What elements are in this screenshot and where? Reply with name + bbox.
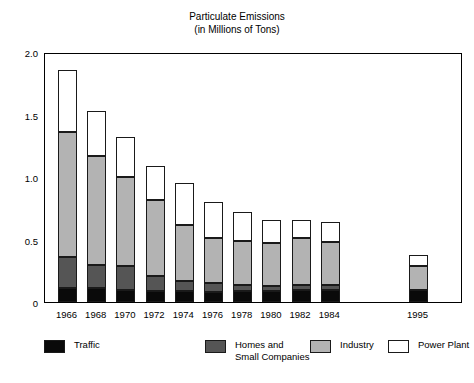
bar-segment-1984-homes-and — [321, 285, 340, 290]
bar-segment-1974-traffic — [175, 291, 194, 302]
x-tick-label: 1978 — [231, 309, 252, 320]
bar-segment-1974-power-plant — [175, 183, 194, 224]
bar-segment-1968-homes-and — [87, 265, 106, 289]
x-tick-label: 1974 — [173, 309, 194, 320]
bar-segment-1980-homes-and — [262, 286, 281, 291]
bar-segment-1970-traffic — [116, 290, 135, 303]
legend-item-power-plant[interactable]: Power Plant — [388, 339, 469, 353]
legend-label: Traffic — [74, 339, 100, 351]
bar-1978[interactable] — [233, 212, 252, 302]
bar-segment-1982-power-plant — [292, 220, 311, 239]
bar-segment-1976-traffic — [204, 292, 223, 302]
bar-segment-1984-power-plant — [321, 222, 340, 242]
y-tick-label: 1.0 — [6, 173, 38, 184]
y-tick-label: 0 — [6, 298, 38, 309]
x-tick-label: 1984 — [319, 309, 340, 320]
bar-segment-1968-traffic — [87, 288, 106, 302]
bar-segment-1984-traffic — [321, 290, 340, 303]
bar-segment-1980-industry — [262, 243, 281, 286]
y-tick-label: 1.5 — [6, 110, 38, 121]
bar-segment-1980-traffic — [262, 291, 281, 302]
bar-segment-1972-traffic — [146, 291, 165, 302]
bar-segment-1970-power-plant — [116, 137, 135, 177]
chart-subtitle: (in Millions of Tons) — [0, 23, 474, 36]
bar-segment-1966-industry — [58, 132, 77, 257]
bars-container — [45, 54, 461, 302]
bar-1970[interactable] — [116, 137, 135, 302]
bar-1972[interactable] — [146, 166, 165, 302]
bar-segment-1995-power-plant — [409, 255, 428, 266]
bar-segment-1972-power-plant — [146, 166, 165, 200]
bar-1976[interactable] — [204, 202, 223, 302]
bar-segment-1995-industry — [409, 266, 428, 290]
bar-1974[interactable] — [175, 183, 194, 302]
bar-segment-1972-homes-and — [146, 276, 165, 291]
x-tick-label: 1972 — [144, 309, 165, 320]
legend-label: Power Plant — [418, 339, 469, 351]
bar-segment-1976-homes-and — [204, 283, 223, 292]
legend-label: Industry — [340, 339, 374, 351]
bar-segment-1968-power-plant — [87, 111, 106, 156]
bar-1982[interactable] — [292, 220, 311, 303]
bar-segment-1976-power-plant — [204, 202, 223, 238]
bar-1984[interactable] — [321, 222, 340, 302]
x-tick-label: 1995 — [407, 309, 428, 320]
bar-segment-1980-power-plant — [262, 220, 281, 244]
bar-segment-1976-industry — [204, 238, 223, 283]
bar-segment-1982-homes-and — [292, 285, 311, 290]
plot-area — [44, 53, 462, 303]
legend-swatch-icon — [205, 340, 226, 353]
chart-title-block: Particulate Emissions (in Millions of To… — [0, 10, 474, 36]
bar-segment-1995-traffic — [409, 290, 428, 303]
bar-1968[interactable] — [87, 111, 106, 302]
x-tick-label: 1980 — [260, 309, 281, 320]
bar-segment-1966-homes-and — [58, 257, 77, 288]
legend-swatch-icon — [388, 340, 409, 353]
x-tick-label: 1966 — [56, 309, 77, 320]
bar-segment-1974-homes-and — [175, 281, 194, 291]
bar-segment-1970-homes-and — [116, 266, 135, 290]
bar-segment-1982-traffic — [292, 290, 311, 303]
bar-segment-1978-homes-and — [233, 285, 252, 291]
legend-item-industry[interactable]: Industry — [310, 339, 374, 353]
y-tick-label: 2.0 — [6, 48, 38, 59]
bar-segment-1982-industry — [292, 238, 311, 284]
bar-1980[interactable] — [262, 220, 281, 303]
legend-swatch-icon — [44, 340, 65, 353]
y-tick-label: 0.5 — [6, 235, 38, 246]
legend-item-homes-and[interactable]: Homes and Small Companies — [205, 339, 309, 362]
x-tick-label: 1970 — [114, 309, 135, 320]
bar-segment-1972-industry — [146, 200, 165, 276]
legend-label: Homes and Small Companies — [235, 339, 309, 362]
legend-item-traffic[interactable]: Traffic — [44, 339, 100, 353]
legend-swatch-icon — [310, 340, 331, 353]
bar-segment-1966-power-plant — [58, 70, 77, 133]
bar-1995[interactable] — [409, 255, 428, 303]
chart-title: Particulate Emissions — [0, 10, 474, 23]
bar-segment-1966-traffic — [58, 288, 77, 302]
x-tick-label: 1982 — [290, 309, 311, 320]
x-tick-label: 1976 — [202, 309, 223, 320]
bar-segment-1978-traffic — [233, 291, 252, 302]
x-tick-label: 1968 — [85, 309, 106, 320]
bar-segment-1974-industry — [175, 225, 194, 281]
bar-segment-1984-industry — [321, 242, 340, 285]
bar-1966[interactable] — [58, 70, 77, 303]
bar-segment-1978-industry — [233, 241, 252, 285]
chart-legend: TrafficHomes and Small CompaniesIndustry… — [0, 339, 474, 379]
bar-segment-1978-power-plant — [233, 212, 252, 241]
bar-segment-1968-industry — [87, 156, 106, 265]
bar-segment-1970-industry — [116, 177, 135, 266]
